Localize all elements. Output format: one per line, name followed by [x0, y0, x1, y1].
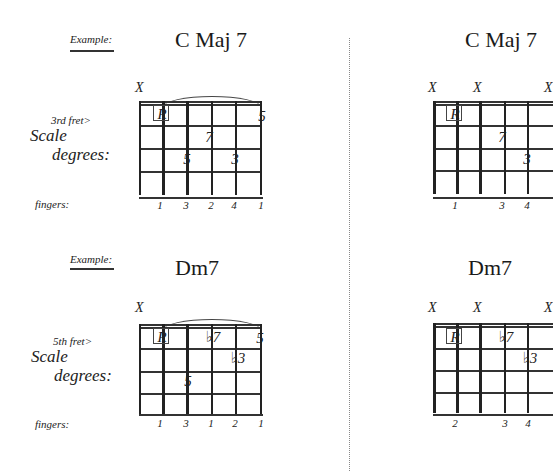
guitar-string — [139, 101, 141, 195]
guitar-string — [433, 323, 436, 413]
scale-degree: 5 — [184, 373, 192, 390]
guitar-string — [527, 101, 529, 194]
finger-number: 3 — [183, 199, 189, 211]
muted-string-mark: X — [135, 300, 144, 316]
fret-line — [433, 323, 553, 325]
example-label: Example: — [70, 253, 112, 265]
guitar-string — [139, 324, 141, 414]
fret-line — [139, 171, 262, 173]
scale-label: Scale — [31, 348, 68, 366]
finger-number: 1 — [157, 199, 163, 211]
fret-line — [139, 371, 262, 373]
finger-number: 1 — [208, 417, 214, 429]
guitar-string — [504, 101, 506, 194]
scale-degree: ♭7 — [206, 328, 221, 346]
scale-degree: R — [157, 329, 166, 346]
finger-number: 3 — [499, 199, 505, 211]
scale-degree: ♭3 — [231, 349, 246, 367]
example-underline — [70, 268, 114, 270]
panel-divider — [349, 38, 350, 471]
scale-degree: 3 — [231, 151, 239, 168]
guitar-string — [235, 324, 237, 414]
fingers-label: fingers: — [35, 198, 69, 210]
finger-number: 1 — [452, 199, 458, 211]
finger-number: 2 — [452, 417, 458, 429]
fret-line — [139, 393, 262, 395]
guitar-string — [211, 101, 213, 195]
chord-title: Dm7 — [468, 255, 512, 281]
fret-line — [139, 101, 262, 103]
fret-line — [139, 324, 262, 326]
fret-line — [433, 170, 553, 172]
muted-string-mark: X — [428, 80, 437, 96]
guitar-string — [235, 101, 237, 195]
scale-degree: 7 — [498, 129, 506, 146]
fret-position-label: 5th fret> — [53, 335, 92, 347]
muted-string-mark: X — [473, 300, 482, 316]
guitar-string — [479, 323, 482, 413]
finger-number: 2 — [208, 199, 214, 211]
finger-number: 2 — [232, 417, 238, 429]
muted-string-mark: X — [428, 300, 437, 316]
chord-title: C Maj 7 — [175, 27, 247, 53]
chord-title: C Maj 7 — [465, 27, 537, 53]
scale-degree: 7 — [205, 129, 213, 146]
muted-string-mark: X — [135, 80, 144, 96]
guitar-string — [186, 324, 189, 414]
fret-position-label: 3rd fret> — [51, 114, 91, 126]
finger-number: 1 — [258, 417, 264, 429]
scale-degree: 5 — [183, 151, 191, 168]
fret-line — [433, 148, 553, 150]
fret-line — [433, 392, 553, 394]
finger-number: 4 — [524, 199, 530, 211]
scale-degree: 5 — [258, 108, 266, 125]
fret-line — [433, 370, 553, 372]
scale-degree: R — [450, 329, 459, 346]
finger-number: 4 — [231, 199, 237, 211]
scale-degree: ♭7 — [499, 328, 514, 346]
muted-string-mark: X — [544, 300, 553, 316]
finger-number: 3 — [183, 417, 189, 429]
finger-number: 1 — [157, 417, 163, 429]
fret-line — [433, 125, 553, 127]
fret-line — [139, 148, 262, 150]
guitar-string — [433, 101, 436, 194]
grid-base-line — [433, 414, 553, 416]
guitar-string — [527, 323, 529, 413]
fret-line — [139, 125, 262, 127]
degrees-label: degrees: — [52, 146, 110, 164]
grid-base-line — [433, 197, 553, 199]
scale-label: Scale — [30, 127, 67, 145]
scale-degree: R — [450, 106, 459, 123]
guitar-string — [479, 101, 482, 194]
scale-degree: ♭3 — [523, 349, 538, 367]
chord-title: Dm7 — [175, 255, 219, 281]
scale-degree: 5 — [256, 330, 264, 347]
example-underline — [70, 50, 114, 52]
finger-number: 1 — [258, 199, 264, 211]
scale-degree: 3 — [523, 151, 531, 168]
grid-base-line — [139, 414, 263, 416]
example-label: Example: — [70, 33, 112, 45]
guitar-string — [186, 101, 189, 195]
scale-degree: R — [157, 106, 166, 123]
degrees-label: degrees: — [54, 367, 112, 385]
muted-string-mark: X — [473, 80, 482, 96]
finger-number: 4 — [525, 417, 531, 429]
fret-line — [433, 101, 553, 103]
finger-number: 3 — [502, 417, 508, 429]
muted-string-mark: X — [544, 80, 553, 96]
fingers-label: fingers: — [35, 418, 69, 430]
